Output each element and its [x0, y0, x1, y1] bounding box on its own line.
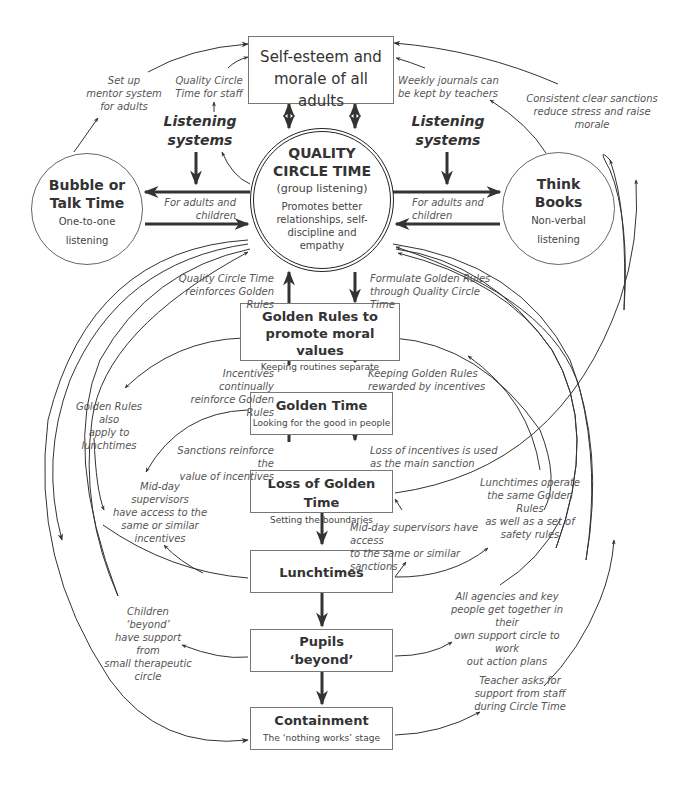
- label-line: have support from: [104, 631, 192, 657]
- label-adults-children-left: For adults andchildren: [160, 196, 236, 222]
- label-line: to the same or similar sanctions: [350, 547, 510, 573]
- label-line: out action plans: [442, 655, 572, 668]
- label-line: the same Golden Rules: [478, 489, 582, 515]
- label-line: For adults and: [412, 196, 492, 209]
- pupils-beyond-title-2: ‘beyond’: [251, 651, 392, 669]
- bubble-sub-1: One-to-one: [32, 212, 142, 231]
- label-line: Children ‘beyond’: [104, 605, 192, 631]
- label-line: incentives: [112, 532, 208, 545]
- label-line: small therapeutic: [104, 657, 192, 670]
- listening-systems-left: Listening systems: [160, 112, 240, 150]
- label-line: All agencies and key: [442, 590, 572, 603]
- qct-title-1: QUALITY: [254, 144, 390, 162]
- think-books-node: Think Books Non-verbal listening: [502, 152, 615, 265]
- label-line: reinforces Golden Rules: [170, 285, 274, 311]
- self-esteem-box: Self-esteem and morale of all adults: [248, 36, 394, 104]
- pupils-beyond-title-1: Pupils: [251, 633, 392, 651]
- label-line: Golden Rules also: [66, 400, 152, 426]
- pupils-beyond-box: Pupils ‘beyond’: [250, 629, 393, 672]
- label-loss-incentives: Loss of incentives is usedas the main sa…: [370, 444, 500, 470]
- label-adults-children-right: For adults andchildren: [412, 196, 492, 222]
- label-line: have access to the: [112, 506, 208, 519]
- think-sub-1: Non-verbal: [503, 211, 614, 230]
- containment-title: Containment: [251, 711, 392, 730]
- label-mentor-system: Set upmentor systemfor adults: [84, 74, 164, 113]
- label-line: rewarded by incentives: [368, 380, 488, 393]
- golden-rules-title-2: promote moral values: [241, 325, 399, 359]
- label-qct-staff: Quality CircleTime for staff: [170, 74, 248, 100]
- label-line: morale: [518, 118, 666, 131]
- listening-right-line-2: systems: [408, 131, 488, 150]
- label-line: safety rules: [478, 528, 582, 541]
- containment-subtitle: The ‘nothing works’ stage: [251, 730, 392, 746]
- think-title-2: Books: [503, 193, 614, 211]
- label-sanctions-value: Sanctions reinforce thevalue of incentiv…: [164, 444, 274, 483]
- label-line: Set up: [84, 74, 164, 87]
- label-children-beyond: Children ‘beyond’have support fromsmall …: [104, 605, 192, 683]
- label-weekly-journals: Weekly journals canbe kept by teachers: [398, 74, 518, 100]
- label-line: Quality Circle: [170, 74, 248, 87]
- bubble-title-1: Bubble or: [32, 176, 142, 194]
- label-line: Formulate Golden Rules: [370, 272, 500, 285]
- listening-systems-right: Listening systems: [408, 112, 488, 150]
- label-line: Incentives continually: [170, 367, 274, 393]
- think-sub-2: listening: [503, 230, 614, 249]
- label-line: mentor system: [84, 87, 164, 100]
- label-line: during Circle Time: [470, 700, 570, 713]
- label-formulate-golden-rules: Formulate Golden Rulesthrough Quality Ci…: [370, 272, 500, 311]
- label-line: For adults and: [160, 196, 236, 209]
- label-midday-incentives: Mid-day supervisorshave access to thesam…: [112, 480, 208, 545]
- golden-rules-box: Golden Rules to promote moral values Kee…: [240, 303, 400, 361]
- bubble-sub-2: listening: [32, 231, 142, 250]
- label-line: own support circle to work: [442, 629, 572, 655]
- label-line: support from staff: [470, 687, 570, 700]
- label-line: children: [160, 209, 236, 222]
- label-line: children: [412, 209, 492, 222]
- label-lunchtimes-operate: Lunchtimes operatethe same Golden Rulesa…: [478, 476, 582, 541]
- label-line: Quality Circle Time: [170, 272, 274, 285]
- listening-left-line-2: systems: [160, 131, 240, 150]
- label-line: be kept by teachers: [398, 87, 518, 100]
- label-consistent-sanctions: Consistent clear sanctionsreduce stress …: [518, 92, 666, 131]
- listening-right-line-1: Listening: [408, 112, 488, 131]
- label-line: Weekly journals can: [398, 74, 518, 87]
- bubble-talk-time-node: Bubble or Talk Time One-to-one listening: [31, 153, 143, 265]
- label-line: reduce stress and raise: [518, 105, 666, 118]
- containment-box: Containment The ‘nothing works’ stage: [250, 707, 393, 750]
- label-qct-reinforces: Quality Circle Timereinforces Golden Rul…: [170, 272, 274, 311]
- label-line: Sanctions reinforce the: [164, 444, 274, 470]
- label-line: Keeping Golden Rules: [368, 367, 488, 380]
- qct-body: Promotes better relationships, self-disc…: [254, 198, 390, 252]
- quality-circle-time-node: QUALITY CIRCLE TIME (group listening) Pr…: [250, 128, 394, 272]
- self-esteem-title: Self-esteem and morale of all adults: [249, 46, 393, 112]
- label-teacher-asks: Teacher asks forsupport from staffduring…: [470, 674, 570, 713]
- label-line: Consistent clear sanctions: [518, 92, 666, 105]
- bubble-title-2: Talk Time: [32, 194, 142, 212]
- think-title-1: Think: [503, 175, 614, 193]
- label-line: Mid-day supervisors: [112, 480, 208, 506]
- label-keeping-rewarded: Keeping Golden Rulesrewarded by incentiv…: [368, 367, 488, 393]
- label-line: lunchtimes: [66, 439, 152, 452]
- label-line: reinforce Golden Rules: [170, 393, 274, 419]
- label-line: Time for staff: [170, 87, 248, 100]
- label-line: Loss of incentives is used: [370, 444, 500, 457]
- label-line: as well as a set of: [478, 515, 582, 528]
- label-gr-also-lunchtimes: Golden Rules alsoapply tolunchtimes: [66, 400, 152, 452]
- label-line: Teacher asks for: [470, 674, 570, 687]
- qct-title-2: CIRCLE TIME: [254, 162, 390, 180]
- qct-subtitle: (group listening): [254, 180, 390, 198]
- label-line: Lunchtimes operate: [478, 476, 582, 489]
- label-all-agencies: All agencies and keypeople get together …: [442, 590, 572, 668]
- label-line: same or similar: [112, 519, 208, 532]
- label-line: people get together in their: [442, 603, 572, 629]
- diagram-canvas: Self-esteem and morale of all adults QUA…: [0, 0, 676, 786]
- listening-left-line-1: Listening: [160, 112, 240, 131]
- label-line: circle: [104, 670, 192, 683]
- label-line: apply to: [66, 426, 152, 439]
- label-line: for adults: [84, 100, 164, 113]
- label-line: as the main sanction: [370, 457, 500, 470]
- label-line: through Quality Circle Time: [370, 285, 500, 311]
- label-incentives-reinforce: Incentives continuallyreinforce Golden R…: [170, 367, 274, 419]
